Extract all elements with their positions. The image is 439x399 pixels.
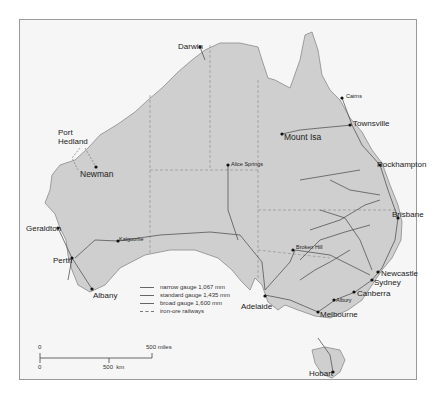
city-label-rockhampton: Rockhampton xyxy=(377,160,426,169)
city-label-townsville: Townsville xyxy=(353,119,389,128)
city-label-cairns: Cairns xyxy=(346,93,362,99)
legend-label: standard gauge 1,435 mm xyxy=(160,292,230,298)
city-label-perth: Perth xyxy=(53,256,72,265)
city-label-brisbane: Brisbane xyxy=(392,210,424,219)
scale-km-label: 500 km xyxy=(103,364,124,370)
australia-map xyxy=(0,0,439,399)
city-label-mount-isa: Mount Isa xyxy=(284,133,321,142)
narrow-gauge-swatch xyxy=(140,287,154,288)
legend-item-narrow-gauge: narrow gauge 1,067 mm xyxy=(140,283,230,291)
city-label-port-hedland: Port Hedland xyxy=(58,128,88,146)
city-label-newcastle: Newcastle xyxy=(381,269,418,278)
broad-gauge-swatch xyxy=(140,303,154,304)
city-label-adelaide: Adelaide xyxy=(241,302,272,311)
city-label-hobart: Hobart xyxy=(309,369,333,378)
standard-gauge-swatch xyxy=(140,295,154,296)
city-label-broken-hill: Broken Hill xyxy=(296,244,323,250)
legend-item-standard-gauge: standard gauge 1,435 mm xyxy=(140,291,230,299)
scale-miles-label: 500 miles xyxy=(146,344,172,350)
legend-item-broad-gauge: broad gauge 1,600 mm xyxy=(140,299,230,307)
scale-km-zero: 0 xyxy=(38,364,41,370)
city-label-kalgoorlie: Kalgoorlie xyxy=(119,236,143,242)
city-label-sydney: Sydney xyxy=(374,278,401,287)
legend-label: broad gauge 1,600 mm xyxy=(160,300,222,306)
city-label-albury: Albury xyxy=(336,297,352,303)
legend-label: narrow gauge 1,067 mm xyxy=(160,284,225,290)
city-label-melbourne: Melbourne xyxy=(320,310,358,319)
map-legend: narrow gauge 1,067 mm standard gauge 1,4… xyxy=(140,283,230,315)
city-label-newman: Newman xyxy=(80,170,114,179)
city-label-albany: Albany xyxy=(93,291,117,300)
iron-ore-swatch xyxy=(140,311,154,312)
scale-bar xyxy=(40,353,152,363)
city-label-canberra: Canberra xyxy=(357,289,390,298)
scale-miles-zero: 0 xyxy=(38,344,41,350)
city-label-alice-springs: Alice Springs xyxy=(231,161,263,167)
legend-label: iron-ore railways xyxy=(160,308,204,314)
city-label-geraldton: Geraldton xyxy=(26,224,61,233)
city-label-darwin: Darwin xyxy=(178,42,203,51)
legend-item-iron-ore: iron-ore railways xyxy=(140,307,230,315)
